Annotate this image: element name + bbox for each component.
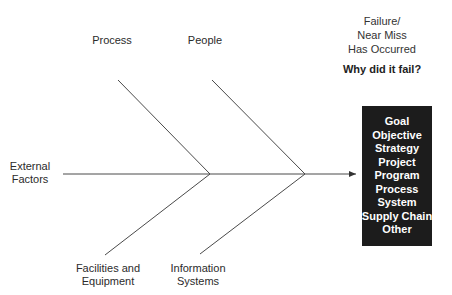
failure-line-2: Near Miss bbox=[322, 28, 442, 42]
effect-item: Goal bbox=[385, 115, 409, 129]
process-bone bbox=[118, 80, 210, 174]
why-question: Why did it fail? bbox=[322, 63, 442, 75]
effect-item: Objective bbox=[372, 129, 422, 143]
failure-line-1: Failure/ bbox=[322, 14, 442, 28]
effect-item: Supply Chain bbox=[362, 210, 432, 224]
cause-label-facilities: Facilities and Equipment bbox=[70, 262, 146, 288]
information-line-1: Information bbox=[165, 262, 231, 275]
effect-box: Goal Objective Strategy Project Program … bbox=[362, 106, 432, 246]
cause-label-process: Process bbox=[82, 34, 142, 47]
effect-item: Program bbox=[374, 169, 419, 183]
cause-label-information: Information Systems bbox=[165, 262, 231, 288]
facilities-line-1: Facilities and bbox=[70, 262, 146, 275]
facilities-line-2: Equipment bbox=[70, 275, 146, 288]
effect-item: Other bbox=[382, 223, 411, 237]
cause-label-external: External Factors bbox=[5, 160, 55, 186]
information-line-2: Systems bbox=[165, 275, 231, 288]
effect-item: Project bbox=[378, 156, 415, 170]
failure-line-3: Has Occurred bbox=[322, 42, 442, 56]
effect-item: Strategy bbox=[375, 142, 419, 156]
effect-item: System bbox=[377, 196, 416, 210]
cause-label-people: People bbox=[175, 34, 235, 47]
failure-title: Failure/ Near Miss Has Occurred bbox=[322, 14, 442, 56]
external-line-1: External bbox=[5, 160, 55, 173]
facilities-bone bbox=[105, 174, 210, 255]
effect-item: Process bbox=[376, 183, 419, 197]
external-line-2: Factors bbox=[5, 173, 55, 186]
information-bone bbox=[200, 174, 305, 254]
people-bone bbox=[212, 80, 305, 174]
